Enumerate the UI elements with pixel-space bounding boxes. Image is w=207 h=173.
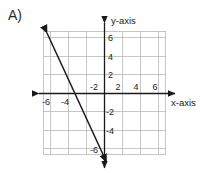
y-tick-label-4: 4 [108,52,113,62]
y-tick-label--6: -6 [90,145,98,155]
x-tick-label-6: 6 [152,82,157,92]
graph-figure: A) [0,0,207,173]
y-tick-label--4: -4 [106,126,114,136]
x-tick-label--2: -2 [90,82,98,92]
y-tick-label-2: 2 [108,70,113,80]
y-tick-label--2: -2 [106,107,114,117]
y-axis-label: y-axis [111,15,136,26]
plotted-line [47,33,107,162]
x-tick-label-4: 4 [133,82,138,92]
x-axis-label: x-axis [171,97,196,108]
y-tick-label-6: 6 [108,33,113,43]
x-tick-label--4: -4 [61,97,69,107]
coordinate-plane: -6 -4 -2 2 4 6 6 4 2 -2 -4 -6 y-axis x-a… [0,0,207,173]
x-tick-label-2: 2 [115,82,120,92]
x-tick-label--6: -6 [42,97,50,107]
